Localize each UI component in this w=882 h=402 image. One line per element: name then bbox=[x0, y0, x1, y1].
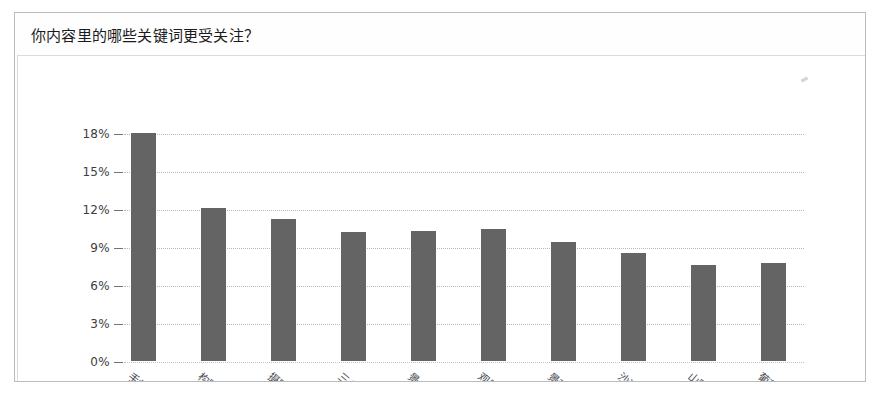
x-axis-tick-label: 手机 bbox=[125, 368, 152, 381]
x-axis-tick-label: 山脉 bbox=[685, 368, 712, 381]
x-axis-tick-label: 摄影师 bbox=[265, 368, 301, 381]
x-axis-tick-label: 景点 bbox=[405, 368, 432, 381]
bar[interactable] bbox=[761, 263, 786, 361]
x-axis-tick-label: 观景台 bbox=[475, 368, 511, 381]
bar[interactable] bbox=[271, 219, 296, 361]
chart-title-bar: 你内容里的哪些关键词更受关注？ bbox=[15, 13, 865, 55]
x-axis-tick-label: 构图法 bbox=[195, 368, 231, 381]
x-axis-tick-label: 葡萄 bbox=[755, 368, 782, 381]
x-axis-tick-label: 三分线 bbox=[335, 368, 371, 381]
bar[interactable] bbox=[551, 242, 576, 361]
chart-plot-panel: 0%3%6%9%12%15%18% 手机构图法摄影师三分线景点观景台景观沙漠山脉… bbox=[17, 55, 865, 381]
bar[interactable] bbox=[481, 229, 506, 361]
bar[interactable] bbox=[621, 253, 646, 361]
bar[interactable] bbox=[691, 265, 716, 361]
bar[interactable] bbox=[201, 208, 226, 361]
page-title: 你内容里的哪些关键词更受关注？ bbox=[31, 24, 259, 45]
x-axis-tick-label: 景观 bbox=[545, 368, 572, 381]
bar[interactable] bbox=[341, 232, 366, 361]
x-axis-tick-label: 沙漠 bbox=[615, 368, 642, 381]
bar[interactable] bbox=[411, 231, 436, 361]
chart-card: 你内容里的哪些关键词更受关注？ 0%3%6%9%12%15%18% 手机构图法摄… bbox=[14, 12, 866, 382]
bar[interactable] bbox=[131, 133, 156, 361]
chart-bars: 手机构图法摄影师三分线景点观景台景观沙漠山脉葡萄 bbox=[18, 56, 865, 381]
